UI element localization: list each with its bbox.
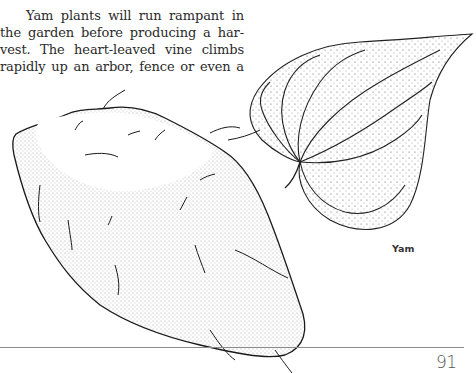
footer-rule	[0, 347, 464, 348]
leaf-icon	[250, 34, 472, 229]
book-page: Yam plants will run rampant in the garde…	[0, 0, 476, 373]
page-number: 91	[436, 352, 457, 372]
yam-illustration-icon	[0, 0, 476, 373]
figure-caption: Yam	[392, 243, 414, 254]
